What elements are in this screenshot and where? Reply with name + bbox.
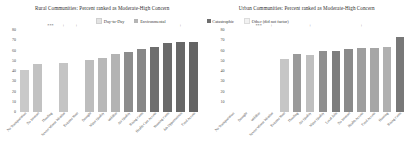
legend-item-catastrophic: Catastrophic bbox=[207, 19, 235, 24]
page-title: Urban Communities: Percent ranked as Mod… bbox=[205, 5, 409, 11]
bar bbox=[319, 51, 327, 113]
significance-marker: + bbox=[265, 24, 278, 28]
bar-group-urban: ***+++ bbox=[227, 30, 407, 112]
bar bbox=[396, 37, 404, 112]
bar-slot bbox=[278, 30, 291, 112]
plot-area-rural: 80 70 60 50 40 30 20 10 0 ***+++ bbox=[18, 30, 200, 112]
significance-marker: *** bbox=[252, 24, 265, 28]
bar bbox=[306, 55, 314, 112]
significance-marker: + bbox=[304, 24, 317, 28]
x-tick-label: Drought bbox=[238, 112, 249, 123]
bar bbox=[98, 58, 107, 112]
bar-slot bbox=[329, 30, 342, 112]
bar-slot: + bbox=[355, 30, 368, 112]
bar-slot bbox=[342, 30, 355, 112]
plot-area-urban: 80 70 60 50 40 30 20 10 ***+++ bbox=[227, 30, 407, 112]
bar-slot bbox=[96, 30, 109, 112]
bar-slot bbox=[83, 30, 96, 112]
bar-slot bbox=[317, 30, 330, 112]
y-tick-label: 30 bbox=[211, 79, 225, 83]
significance-marker: *** bbox=[44, 24, 57, 28]
significance-marker: + bbox=[355, 24, 368, 28]
bar bbox=[59, 63, 68, 112]
bar-slot bbox=[227, 30, 240, 112]
significance-marker: + bbox=[174, 24, 187, 28]
bar bbox=[332, 51, 340, 113]
y-tick-label: 80 bbox=[211, 28, 225, 32]
bar bbox=[280, 59, 288, 112]
figure-container: Rural Communities: Percent ranked as Mod… bbox=[0, 0, 409, 157]
y-tick-label: 80 bbox=[2, 28, 16, 32]
bar bbox=[189, 42, 198, 112]
bar-slot bbox=[18, 30, 31, 112]
x-tick-label: No Transportation bbox=[6, 112, 27, 133]
legend-label-day-to-day: Day-to-Day bbox=[104, 19, 125, 24]
y-tick-label: 10 bbox=[2, 100, 16, 104]
bar-slot: *** bbox=[252, 30, 265, 112]
bar bbox=[137, 49, 146, 112]
legend-row-secondary: Catastrophic Other (did not factor) bbox=[207, 18, 296, 24]
y-tick-label: 60 bbox=[2, 49, 16, 53]
bar-slot bbox=[161, 30, 174, 112]
bar bbox=[344, 49, 352, 112]
bar bbox=[150, 47, 159, 112]
bar-slot bbox=[148, 30, 161, 112]
y-tick-label: 50 bbox=[211, 59, 225, 63]
legend-swatch-environmental bbox=[134, 19, 138, 23]
bar-group-rural: ***+++ bbox=[18, 30, 200, 112]
significance-marker: + bbox=[70, 24, 83, 28]
bar-slot bbox=[31, 30, 44, 112]
legend-swatch-catastrophic bbox=[207, 19, 211, 23]
x-axis-labels-rural: No TransportationNo InternetFloodingSeve… bbox=[18, 112, 200, 157]
bar bbox=[370, 48, 378, 112]
bar-slot bbox=[381, 30, 394, 112]
y-tick-label: 60 bbox=[211, 49, 225, 53]
bar bbox=[33, 64, 42, 112]
bar bbox=[20, 70, 29, 112]
bar-slot bbox=[239, 30, 252, 112]
page-title: Rural Communities: Percent ranked as Mod… bbox=[0, 5, 205, 11]
bar bbox=[124, 52, 133, 112]
legend-item-environmental: Environmental bbox=[134, 19, 165, 24]
bar-slot bbox=[135, 30, 148, 112]
bar-slot bbox=[291, 30, 304, 112]
y-tick-label: 70 bbox=[2, 38, 16, 42]
bar bbox=[163, 43, 172, 112]
bar-slot: + bbox=[57, 30, 70, 112]
y-tick-label: 50 bbox=[2, 59, 16, 63]
bar bbox=[85, 60, 94, 112]
x-label-slot: Rising Costs bbox=[394, 112, 407, 157]
y-tick-label: 30 bbox=[2, 79, 16, 83]
bar-slot: + bbox=[70, 30, 83, 112]
panel-rural: Rural Communities: Percent ranked as Mod… bbox=[0, 0, 205, 157]
y-tick-label: 0 bbox=[2, 110, 16, 114]
bar-slot bbox=[122, 30, 135, 112]
bar bbox=[383, 47, 391, 112]
y-tick-label: 20 bbox=[211, 90, 225, 94]
bar bbox=[357, 48, 365, 112]
y-tick-label: 20 bbox=[2, 90, 16, 94]
y-tick-label: 40 bbox=[2, 69, 16, 73]
y-tick-label: 40 bbox=[211, 69, 225, 73]
y-tick-label: 10 bbox=[211, 100, 225, 104]
bar-slot: *** bbox=[44, 30, 57, 112]
legend-label-environmental: Environmental bbox=[140, 19, 166, 24]
legend-swatch-day-to-day bbox=[96, 18, 102, 24]
x-label-slot: Food Access bbox=[187, 112, 200, 157]
bar-slot bbox=[394, 30, 407, 112]
bar-slot: + bbox=[304, 30, 317, 112]
bar-slot: + bbox=[174, 30, 187, 112]
bar bbox=[176, 42, 185, 112]
panel-urban: Urban Communities: Percent ranked as Mod… bbox=[205, 0, 409, 157]
bar-slot: + bbox=[265, 30, 278, 112]
bar bbox=[111, 54, 120, 112]
x-tick-label: No Transportation bbox=[215, 112, 236, 133]
bar-slot bbox=[368, 30, 381, 112]
legend-item-day-to-day: Day-to-Day bbox=[96, 18, 124, 24]
bar-slot bbox=[109, 30, 122, 112]
x-axis-labels-urban: No TransportationDroughtWildfireSevere W… bbox=[227, 112, 407, 157]
y-tick-label: 70 bbox=[211, 38, 225, 42]
legend-label-catastrophic: Catastrophic bbox=[212, 19, 234, 24]
bar bbox=[293, 54, 301, 112]
bar-slot bbox=[187, 30, 200, 112]
